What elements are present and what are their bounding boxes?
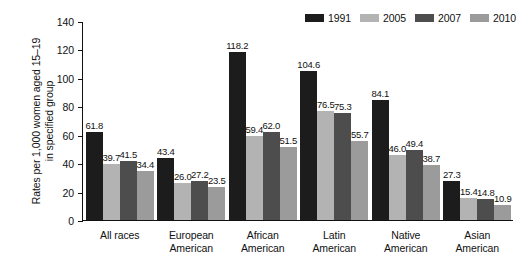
bar-rect (120, 161, 137, 220)
x-axis-category-label: EuropeanAmerican (169, 229, 214, 255)
x-axis-category-line: Asian (455, 229, 499, 242)
bar-group: 27.315.414.810.9AsianAmerican (442, 22, 514, 220)
bar-1991-european-american[interactable]: 43.4 (157, 22, 174, 220)
bar-value-label: 43.4 (157, 146, 175, 157)
bar-1991-asian-american[interactable]: 27.3 (443, 22, 460, 220)
bar-rect (334, 113, 351, 220)
x-axis-category-line: Latin (312, 229, 356, 242)
bar-2005-asian-american[interactable]: 15.4 (460, 22, 477, 220)
bar-2010-european-american[interactable]: 23.5 (208, 22, 225, 220)
bar-rect (229, 52, 246, 220)
y-axis-tick-label: 40 (63, 158, 74, 171)
y-axis-title-line: in specified group (43, 21, 56, 221)
bar-group: 118.259.462.051.5AfricanAmerican (227, 22, 299, 220)
bar-group: 84.146.049.438.7NativeAmerican (370, 22, 442, 220)
bar-rect (246, 136, 263, 220)
x-axis-category-line: African (241, 229, 285, 242)
x-axis-category-line: European (169, 229, 214, 242)
x-axis-category-label: AsianAmerican (455, 229, 499, 255)
bar-value-label: 55.7 (351, 129, 369, 140)
bar-value-label: 27.2 (191, 169, 209, 180)
bar-2005-european-american[interactable]: 26.0 (174, 22, 191, 220)
bar-1991-all-races[interactable]: 61.8 (86, 22, 103, 220)
y-axis-tick-label: 60 (63, 130, 74, 143)
bar-2010-native-american[interactable]: 38.7 (423, 22, 440, 220)
bar-rect (208, 187, 225, 220)
y-axis-title-line: Rates per 1,000 women aged 15–19 (30, 21, 43, 221)
plot-area: 020406080100120140 61.839.741.534.4All r… (82, 22, 513, 221)
bar-2005-all-races[interactable]: 39.7 (103, 22, 120, 220)
bars: 84.146.049.438.7 (370, 22, 442, 220)
bar-2007-african-american[interactable]: 62.0 (263, 22, 280, 220)
bar-value-label: 62.0 (262, 120, 280, 131)
bar-1991-african-american[interactable]: 118.2 (229, 22, 246, 220)
bar-rect (300, 71, 317, 220)
y-axis-tick: 80 (78, 107, 83, 108)
bar-rect (351, 141, 368, 220)
bar-rect (157, 158, 174, 220)
legend-swatch-icon (360, 14, 379, 22)
y-axis-tick-label: 80 (63, 101, 74, 114)
bar-2005-african-american[interactable]: 59.4 (246, 22, 263, 220)
bar-value-label: 15.4 (460, 186, 478, 197)
bar-value-label: 34.4 (136, 159, 154, 170)
bar-2007-all-races[interactable]: 41.5 (120, 22, 137, 220)
bar-2007-european-american[interactable]: 27.2 (191, 22, 208, 220)
bar-rect (389, 155, 406, 220)
y-axis-tick-label: 120 (57, 44, 74, 57)
bar-2007-native-american[interactable]: 49.4 (406, 22, 423, 220)
x-axis-category-label: All races (100, 229, 139, 242)
bars: 43.426.027.223.5 (156, 22, 228, 220)
bar-value-label: 61.8 (85, 120, 103, 131)
y-axis-tick: 40 (78, 164, 83, 165)
y-axis-tick-label: 140 (57, 16, 74, 29)
bar-value-label: 39.7 (102, 152, 120, 163)
x-axis-category-line: American (384, 242, 428, 255)
bar-2005-latin-american[interactable]: 76.5 (317, 22, 334, 220)
bar-value-label: 49.4 (405, 138, 423, 149)
bar-2010-african-american[interactable]: 51.5 (280, 22, 297, 220)
bars: 118.259.462.051.5 (227, 22, 299, 220)
bar-groups: 61.839.741.534.4All races43.426.027.223.… (84, 22, 513, 220)
bar-rect (103, 164, 120, 220)
bar-value-label: 84.1 (371, 88, 389, 99)
bar-rect (477, 199, 494, 220)
legend-swatch-icon (415, 14, 434, 22)
bar-value-label: 51.5 (279, 135, 297, 146)
bar-2010-all-races[interactable]: 34.4 (137, 22, 154, 220)
bar-rect (174, 183, 191, 220)
bar-chart: 1991200520072010 Rates per 1,000 women a… (0, 0, 525, 273)
bar-rect (460, 198, 477, 220)
bar-rect (423, 165, 440, 220)
y-axis-title: Rates per 1,000 women aged 15–19in speci… (30, 21, 56, 221)
x-axis-category-line: American (241, 242, 285, 255)
bar-value-label: 14.8 (477, 187, 495, 198)
y-axis-tick: 0 (78, 221, 83, 222)
x-axis-category-line: American (455, 242, 499, 255)
bar-2010-asian-american[interactable]: 10.9 (494, 22, 511, 220)
bar-2010-latin-american[interactable]: 55.7 (351, 22, 368, 220)
bar-value-label: 38.7 (422, 153, 440, 164)
bar-1991-native-american[interactable]: 84.1 (372, 22, 389, 220)
bar-2005-native-american[interactable]: 46.0 (389, 22, 406, 220)
bar-2007-asian-american[interactable]: 14.8 (477, 22, 494, 220)
bar-rect (86, 132, 103, 220)
x-axis-category-line: American (312, 242, 356, 255)
legend-swatch-icon (305, 14, 324, 22)
bar-value-label: 46.0 (388, 143, 406, 154)
bar-value-label: 76.5 (317, 99, 335, 110)
bar-value-label: 26.0 (174, 171, 192, 182)
y-axis-tick-label: 20 (63, 187, 74, 200)
legend-swatch-icon (470, 14, 489, 22)
y-axis-tick: 60 (78, 136, 83, 137)
bars: 61.839.741.534.4 (84, 22, 156, 220)
bar-rect (137, 171, 154, 220)
bar-value-label: 10.9 (494, 193, 512, 204)
bar-group: 104.676.575.355.7LatinAmerican (299, 22, 371, 220)
x-axis-category-line: American (169, 242, 214, 255)
bar-1991-latin-american[interactable]: 104.6 (300, 22, 317, 220)
x-axis-category-line: Native (384, 229, 428, 242)
bar-2007-latin-american[interactable]: 75.3 (334, 22, 351, 220)
bars: 104.676.575.355.7 (299, 22, 371, 220)
bar-rect (443, 181, 460, 220)
